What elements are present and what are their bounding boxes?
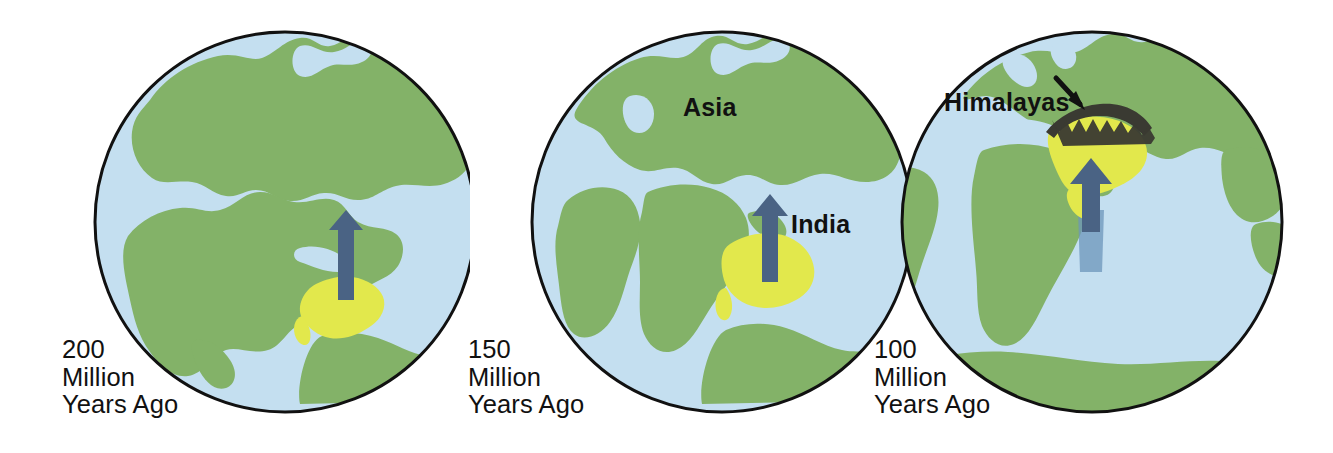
globe-panel-200-million: 200 Million Years Ago (0, 0, 470, 453)
caption-line-age: 200 (62, 336, 178, 364)
caption-line-years-ago: Years Ago (62, 391, 178, 419)
caption-150-million: 150 Million Years Ago (468, 336, 584, 419)
caption-100-million: 100 Million Years Ago (874, 336, 990, 419)
caption-line-million: Million (62, 364, 178, 392)
india-label: India (791, 210, 850, 239)
asia-label: Asia (683, 93, 737, 122)
caption-line-years-ago: Years Ago (874, 391, 990, 419)
globe-panel-100-million: Himalayas 100 Million Years Ago (880, 0, 1333, 453)
caption-line-million: Million (874, 364, 990, 392)
caption-line-age: 100 (874, 336, 990, 364)
continental-drift-figure: 200 Million Years Ago (0, 0, 1333, 453)
caption-line-years-ago: Years Ago (468, 391, 584, 419)
himalayas-label: Himalayas (944, 88, 1070, 117)
globe-panel-150-million: Asia India 150 Million Years Ago (440, 0, 910, 453)
caption-line-age: 150 (468, 336, 584, 364)
caption-200-million: 200 Million Years Ago (62, 336, 178, 419)
caption-line-million: Million (468, 364, 584, 392)
